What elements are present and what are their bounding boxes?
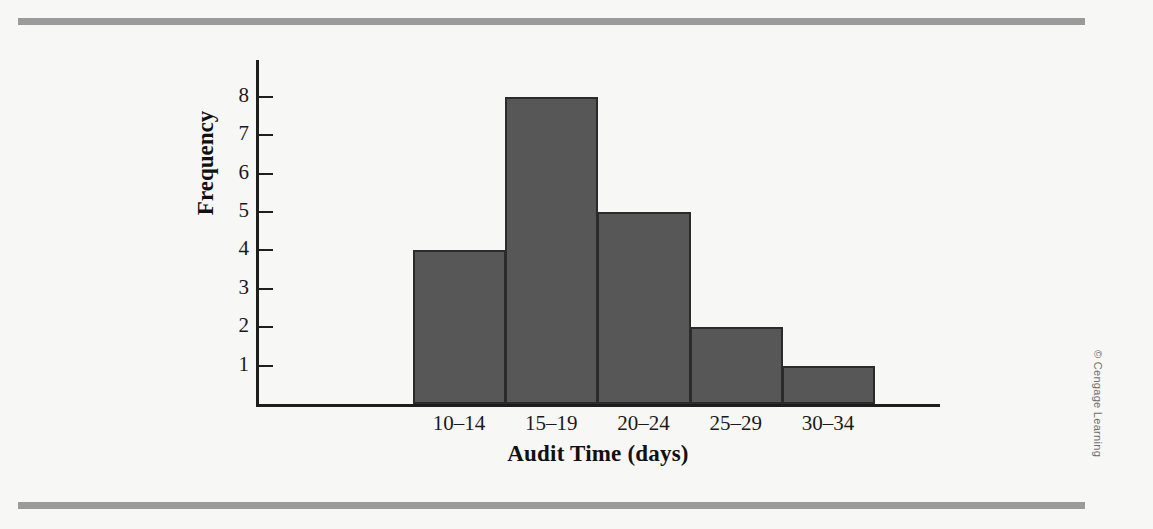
- x-axis-line: [256, 404, 940, 407]
- x-tick-label: 25–29: [690, 412, 782, 435]
- histogram-bar: [597, 212, 690, 404]
- x-tick-label: 15–19: [505, 412, 597, 435]
- plot-area: 12345678 10–1415–1920–2425–2930–34 Audit…: [0, 0, 1153, 529]
- x-tick-label: 20–24: [597, 412, 689, 435]
- y-tick-mark: [259, 365, 273, 367]
- y-tick-mark: [259, 211, 273, 213]
- y-tick-mark: [259, 326, 273, 328]
- histogram-figure: 12345678 10–1415–1920–2425–2930–34 Audit…: [0, 0, 1153, 529]
- x-tick-label: 10–14: [413, 412, 505, 435]
- y-axis-line: [256, 60, 259, 407]
- histogram-bar: [782, 366, 875, 404]
- y-tick-mark: [259, 96, 273, 98]
- y-tick-label: 7: [225, 123, 249, 144]
- y-tick-label: 5: [225, 200, 249, 221]
- y-axis-title: Frequency: [193, 73, 219, 253]
- histogram-bar: [505, 97, 598, 404]
- y-tick-label: 2: [225, 315, 249, 336]
- y-tick-mark: [259, 288, 273, 290]
- figure-page: 12345678 10–1415–1920–2425–2930–34 Audit…: [0, 0, 1153, 529]
- x-tick-label: 30–34: [782, 412, 874, 435]
- histogram-bar: [690, 327, 783, 404]
- copyright-credit: © Cengage Learning: [1092, 350, 1104, 520]
- histogram-bar: [413, 250, 506, 404]
- y-tick-label: 6: [225, 162, 249, 183]
- y-tick-label: 1: [225, 354, 249, 375]
- y-tick-mark: [259, 134, 273, 136]
- x-axis-title: Audit Time (days): [256, 441, 940, 467]
- y-tick-label: 4: [225, 238, 249, 259]
- y-tick-label: 3: [225, 277, 249, 298]
- y-tick-label: 8: [225, 85, 249, 106]
- y-tick-mark: [259, 173, 273, 175]
- y-tick-mark: [259, 249, 273, 251]
